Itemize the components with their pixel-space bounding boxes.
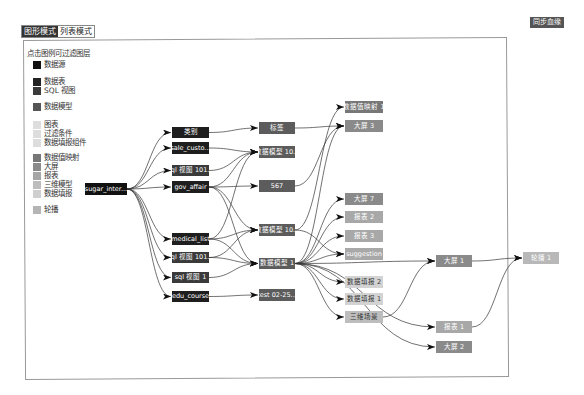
graph-node[interactable]: 数据填报 1 <box>345 293 383 305</box>
lineage-edge <box>209 128 258 133</box>
lineage-edge <box>209 186 258 187</box>
lineage-edge <box>295 107 344 230</box>
lineage-edge <box>209 187 258 264</box>
lineage-edge <box>209 148 258 152</box>
lineage-edge <box>472 258 522 327</box>
lineage-edge <box>209 264 258 278</box>
graph-node[interactable]: medical_list <box>172 233 209 245</box>
graph-node[interactable]: 大屏 1 <box>436 255 472 267</box>
graph-node[interactable]: 数据模型 1 <box>259 258 295 269</box>
graph-node[interactable]: edu_course <box>172 291 209 302</box>
lineage-graph-edges <box>0 0 584 395</box>
lineage-edge <box>127 189 171 239</box>
graph-node[interactable]: 类别 <box>172 127 209 138</box>
graph-node[interactable]: 数据填报 2 <box>345 276 383 288</box>
lineage-edge <box>127 171 171 190</box>
lineage-edge <box>127 189 171 278</box>
lineage-edge <box>383 261 435 317</box>
graph-node[interactable]: 轮播 1 <box>523 252 559 264</box>
graph-node[interactable]: 567 <box>259 180 295 192</box>
graph-node[interactable]: sql 视图 1 <box>172 272 209 283</box>
graph-node[interactable]: test 02-25... <box>259 289 295 301</box>
graph-node[interactable]: 大屏 2 <box>436 341 472 353</box>
lineage-edge <box>295 217 344 264</box>
graph-node[interactable]: 数据模型 10... <box>259 224 295 236</box>
lineage-edge <box>209 187 258 230</box>
lineage-edge <box>209 230 258 258</box>
graph-node[interactable]: suggestion <box>345 248 383 260</box>
graph-node[interactable]: 大屏 3 <box>345 120 383 132</box>
lineage-edge <box>295 126 344 186</box>
graph-node[interactable]: 标签 <box>259 122 295 134</box>
lineage-edge <box>209 239 258 264</box>
graph-node[interactable]: 报表 3 <box>345 230 383 242</box>
lineage-edge <box>295 261 435 264</box>
graph-node[interactable]: 三维场景 <box>345 311 383 323</box>
graph-node[interactable]: 数据模型 10... <box>259 146 295 158</box>
lineage-edge <box>295 126 344 264</box>
graph-node[interactable]: sugar_inter... <box>85 183 127 195</box>
graph-node[interactable]: sql 视图 101... <box>172 165 209 176</box>
lineage-edge <box>127 189 171 297</box>
lineage-edge <box>209 295 258 297</box>
graph-node[interactable]: 报表 1 <box>436 321 472 333</box>
lineage-edge <box>295 199 344 264</box>
lineage-edge <box>295 264 344 318</box>
graph-node[interactable]: 数据值映射 1 <box>345 101 383 113</box>
lineage-edge <box>127 189 171 258</box>
lineage-edge <box>209 230 258 239</box>
lineage-edge <box>295 230 344 254</box>
graph-node[interactable]: 报表 2 <box>345 211 383 223</box>
graph-node[interactable]: sql 视图 101... <box>172 252 209 263</box>
lineage-edge <box>295 126 344 128</box>
graph-node[interactable]: gov_affair <box>172 181 209 193</box>
lineage-edge <box>127 133 171 190</box>
graph-node[interactable]: sale_custo... <box>172 142 209 154</box>
graph-node[interactable]: 大屏 7 <box>345 193 383 205</box>
lineage-edge <box>127 148 171 189</box>
